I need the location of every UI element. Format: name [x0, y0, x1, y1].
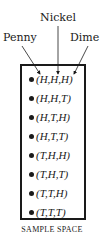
bullet-icon [29, 172, 34, 177]
outcome-row: (H,H,H) [29, 72, 73, 86]
outcome-row: (T,T,H) [29, 186, 67, 200]
sample-space-caption: SAMPLE SPACE [0, 225, 104, 234]
bullet-icon [29, 210, 34, 215]
outcome-row: (T,T,T) [29, 205, 66, 219]
bullet-icon [29, 191, 34, 196]
outcome-row: (T,H,T) [29, 167, 68, 181]
bullet-icon [29, 96, 34, 101]
outcome-row: (H,T,H) [29, 110, 70, 124]
outcome-row: (T,H,H) [29, 148, 70, 162]
sample-space-box: (H,H,H) (H,H,T) (H,T,H) (H,T,T) (T,H,H) … [20, 64, 86, 220]
bullet-icon [29, 134, 34, 139]
bullet-icon [29, 115, 34, 120]
bullet-icon [29, 153, 34, 158]
outcome-row: (H,H,T) [29, 91, 71, 105]
outcome-row: (H,T,T) [29, 129, 68, 143]
bullet-icon [29, 77, 34, 82]
